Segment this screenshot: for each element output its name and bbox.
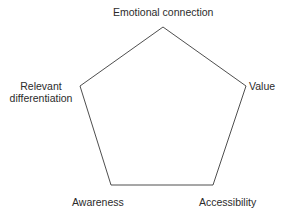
edge-relevant-differentiation-emotional-connection	[80, 27, 163, 86]
node-label-line: Relevant	[4, 80, 78, 92]
node-label-value: Value	[249, 80, 275, 92]
node-label-line: differentiation	[4, 92, 78, 104]
edge-value-accessibility	[213, 86, 246, 185]
node-label-emotional-connection: Emotional connection	[113, 6, 213, 18]
edge-awareness-relevant-differentiation	[80, 86, 111, 185]
pentagon-diagram	[0, 0, 286, 219]
node-label-awareness: Awareness	[72, 196, 124, 208]
node-label-accessibility: Accessibility	[199, 196, 256, 208]
node-label-relevant-differentiation: Relevant differentiation	[4, 80, 78, 104]
edge-emotional-connection-value	[163, 27, 246, 86]
